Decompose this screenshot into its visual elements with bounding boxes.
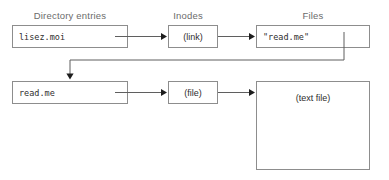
arrowhead-icon [161,89,167,96]
column-header-inodes: Inodes [173,10,203,21]
symlink-diagram: Directory entries Inodes Files lisez.moi… [0,0,389,180]
node-label: (text file) [296,93,331,103]
node-label: (file) [184,88,202,98]
arrowhead-icon [249,33,255,40]
node-dir-entry-read-me: read.me [12,81,128,104]
arrowhead-icon [66,74,73,80]
node-inode-file: (file) [168,81,218,104]
column-header-directory-entries: Directory entries [34,10,107,21]
node-inode-link: (link) [168,25,218,48]
arrowhead-icon [249,89,255,96]
column-header-files: Files [302,10,323,21]
arrowhead-icon [161,33,167,40]
node-file-read-me-target: "read.me" [256,25,370,48]
node-dir-entry-lisez-moi: lisez.moi [12,25,128,48]
node-label: lisez.moi [19,32,65,42]
node-label: read.me [19,88,55,98]
node-file-text-file: (text file) [256,81,370,170]
node-label: "read.me" [263,32,309,42]
node-label: (link) [183,32,203,42]
